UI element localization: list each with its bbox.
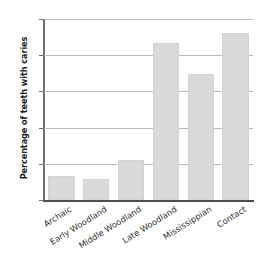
plot-area — [44, 19, 253, 200]
bar-middle-woodland — [118, 160, 144, 200]
y-tick-mark-5 — [39, 164, 44, 165]
y-tick-mark-0 — [39, 200, 44, 201]
y-tick-mark-20 — [39, 55, 44, 56]
y-tick-mark-25 — [39, 19, 44, 20]
y-tick-mark-15 — [39, 91, 44, 92]
bar-mississippian — [188, 74, 214, 200]
bar-contact — [222, 33, 248, 200]
x-tick-label-contact: Contact — [215, 204, 248, 230]
bar-chart: Percentage of teeth with caries 05101520… — [0, 0, 257, 279]
y-axis-title: Percentage of teeth with caries — [19, 18, 29, 198]
x-axis-line — [43, 200, 254, 202]
bar-late-woodland — [153, 43, 179, 200]
bar-archaic — [48, 176, 74, 200]
y-tick-mark-10 — [39, 128, 44, 129]
x-tick-label-middle-woodland: Middle Woodland — [77, 204, 143, 251]
bar-early-woodland — [83, 179, 109, 200]
gridline-25 — [44, 19, 253, 20]
